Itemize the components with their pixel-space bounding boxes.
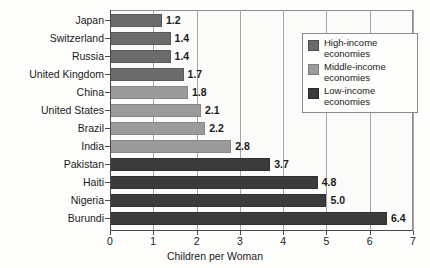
category-label-japan: Japan — [0, 11, 104, 29]
category-label-china: China — [0, 83, 104, 101]
category-label-united-states: United States — [0, 101, 104, 119]
legend-label-high: High-incomeeconomies — [324, 38, 377, 59]
category-tick — [105, 110, 110, 111]
bar-value-label: 3.7 — [274, 157, 289, 171]
bar-china — [110, 86, 188, 99]
x-tick-label-3: 3 — [237, 235, 243, 247]
bar-value-label: 1.8 — [192, 85, 207, 99]
x-axis-title: Children per Woman — [0, 250, 430, 262]
bar-nigeria — [110, 194, 326, 207]
legend-label-line1: Low-income — [324, 86, 375, 97]
category-tick — [105, 146, 110, 147]
bar-row: 2.8 — [110, 137, 413, 155]
bar-value-label: 1.7 — [188, 67, 203, 81]
bar-value-label: 1.4 — [175, 31, 190, 45]
category-tick — [105, 74, 110, 75]
legend-label-low: Low-incomeeconomies — [324, 86, 375, 107]
x-tick-label-5: 5 — [324, 235, 330, 247]
legend-item-high: High-incomeeconomies — [308, 38, 412, 59]
bar-value-label: 2.1 — [205, 103, 220, 117]
fertility-rate-bar-chart: 1.21.41.41.71.82.12.22.83.74.85.06.4 Jap… — [0, 0, 430, 268]
x-tick-label-6: 6 — [367, 235, 373, 247]
category-label-haiti: Haiti — [0, 173, 104, 191]
bar-switzerland — [110, 32, 171, 45]
category-tick — [105, 92, 110, 93]
x-tick-label-2: 2 — [194, 235, 200, 247]
bar-row: 2.2 — [110, 119, 413, 137]
bar-india — [110, 140, 231, 153]
legend-item-middle: Middle-incomeeconomies — [308, 62, 412, 83]
bar-value-label: 4.8 — [322, 175, 337, 189]
category-label-switzerland: Switzerland — [0, 29, 104, 47]
bar-united-states — [110, 104, 201, 117]
category-tick — [105, 20, 110, 21]
x-tick-label-0: 0 — [107, 235, 113, 247]
bar-value-label: 2.8 — [235, 139, 250, 153]
category-tick — [105, 218, 110, 219]
bar-value-label: 5.0 — [330, 193, 345, 207]
category-tick — [105, 56, 110, 57]
bar-value-label: 1.4 — [175, 49, 190, 63]
bar-row: 1.2 — [110, 11, 413, 29]
category-label-united-kingdom: United Kingdom — [0, 65, 104, 83]
legend-item-low: Low-incomeeconomies — [308, 86, 412, 107]
bar-row: 4.8 — [110, 173, 413, 191]
category-tick — [105, 128, 110, 129]
category-label-brazil: Brazil — [0, 119, 104, 137]
legend-label-line1: Middle-income — [324, 62, 386, 73]
x-tick-label-7: 7 — [410, 235, 416, 247]
x-tick-label-1: 1 — [150, 235, 156, 247]
bar-row: 6.4 — [110, 209, 413, 227]
x-axis-line — [110, 230, 413, 231]
category-label-burundi: Burundi — [0, 209, 104, 227]
category-tick — [105, 38, 110, 39]
legend-swatch-low — [308, 88, 319, 99]
legend-label-line2: economies — [324, 97, 375, 108]
legend-label-middle: Middle-incomeeconomies — [324, 62, 386, 83]
bar-pakistan — [110, 158, 270, 171]
legend-label-line2: economies — [324, 73, 386, 84]
y-axis-line — [110, 10, 111, 231]
bar-value-label: 2.2 — [209, 121, 224, 135]
bar-japan — [110, 14, 162, 27]
bar-value-label: 6.4 — [391, 211, 406, 225]
bar-burundi — [110, 212, 387, 225]
bar-brazil — [110, 122, 205, 135]
bar-united-kingdom — [110, 68, 184, 81]
bar-value-label: 1.2 — [166, 13, 181, 27]
category-label-pakistan: Pakistan — [0, 155, 104, 173]
bar-haiti — [110, 176, 318, 189]
category-tick — [105, 200, 110, 201]
legend: High-incomeeconomiesMiddle-incomeeconomi… — [302, 33, 418, 113]
category-label-russia: Russia — [0, 47, 104, 65]
x-tick-label-4: 4 — [280, 235, 286, 247]
bar-row: 5.0 — [110, 191, 413, 209]
category-label-nigeria: Nigeria — [0, 191, 104, 209]
category-label-india: India — [0, 137, 104, 155]
legend-label-line2: economies — [324, 49, 377, 60]
bar-row: 3.7 — [110, 155, 413, 173]
bar-russia — [110, 50, 171, 63]
legend-label-line1: High-income — [324, 38, 377, 49]
legend-swatch-middle — [308, 64, 319, 75]
legend-swatch-high — [308, 40, 319, 51]
category-tick — [105, 164, 110, 165]
category-tick — [105, 182, 110, 183]
